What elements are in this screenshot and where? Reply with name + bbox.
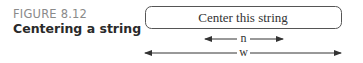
w-label: w [239,45,248,59]
n-arrow: n [205,31,283,45]
centering-diagram: Center this string n w [0,0,363,63]
w-arrow: w [145,45,341,59]
box-text: Center this string [198,10,288,25]
n-label: n [241,31,247,45]
